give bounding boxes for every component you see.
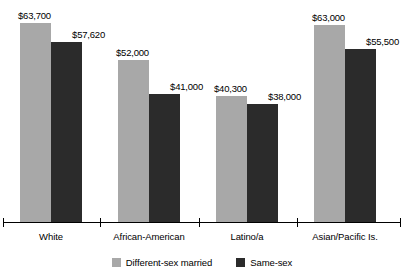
chart-legend: Different-sex marriedSame-sex bbox=[0, 255, 404, 269]
bar-fill bbox=[118, 60, 149, 223]
bar-fill bbox=[51, 42, 82, 223]
bar-value-label: $52,000 bbox=[116, 47, 149, 58]
bar-group: $63,000$55,500 bbox=[314, 0, 376, 223]
legend-label: Different-sex married bbox=[126, 257, 212, 268]
bar-value-label: $55,500 bbox=[366, 36, 399, 47]
bar[interactable]: $63,700 bbox=[20, 23, 51, 223]
bar-fill bbox=[216, 96, 247, 223]
x-axis-category-labels: WhiteAfrican-AmericanLatino/aAsian/Pacif… bbox=[0, 231, 404, 245]
bar-value-label: $38,000 bbox=[268, 91, 301, 102]
axis-tick bbox=[3, 218, 4, 227]
bar[interactable]: $38,000 bbox=[247, 104, 278, 223]
bar-value-label: $40,300 bbox=[214, 83, 247, 94]
legend-swatch-icon bbox=[112, 258, 121, 267]
axis-tick bbox=[297, 218, 298, 227]
bar[interactable]: $63,000 bbox=[314, 25, 345, 223]
legend-item[interactable]: Same-sex bbox=[236, 257, 292, 268]
bar-value-label: $63,700 bbox=[18, 10, 51, 21]
bar[interactable]: $57,620 bbox=[51, 42, 82, 223]
bar[interactable]: $55,500 bbox=[345, 49, 376, 223]
bar-group: $40,300$38,000 bbox=[216, 0, 278, 223]
axis-tick bbox=[100, 218, 101, 227]
axis-tick bbox=[199, 218, 200, 227]
bar-fill bbox=[247, 104, 278, 223]
bar-value-label: $57,620 bbox=[72, 29, 105, 40]
category-label-asian-pacific-is: Asian/Pacific Is. bbox=[285, 231, 404, 243]
bar-fill bbox=[20, 23, 51, 223]
bar-fill bbox=[149, 94, 180, 223]
bar-group: $52,000$41,000 bbox=[118, 0, 180, 223]
plot-area: $63,700$57,620$52,000$41,000$40,300$38,0… bbox=[0, 0, 404, 223]
legend-item[interactable]: Different-sex married bbox=[112, 257, 212, 268]
legend-label: Same-sex bbox=[250, 257, 292, 268]
bar[interactable]: $52,000 bbox=[118, 60, 149, 223]
bar[interactable]: $41,000 bbox=[149, 94, 180, 223]
bar-value-label: $41,000 bbox=[170, 81, 203, 92]
bar-value-label: $63,000 bbox=[312, 12, 345, 23]
axis-tick bbox=[400, 218, 401, 227]
bar[interactable]: $40,300 bbox=[216, 96, 247, 223]
x-axis-line bbox=[3, 222, 400, 223]
bar-group: $63,700$57,620 bbox=[20, 0, 82, 223]
bar-fill bbox=[314, 25, 345, 223]
grouped-bar-chart: $63,700$57,620$52,000$41,000$40,300$38,0… bbox=[0, 0, 404, 279]
legend-swatch-icon bbox=[236, 258, 245, 267]
bar-fill bbox=[345, 49, 376, 223]
